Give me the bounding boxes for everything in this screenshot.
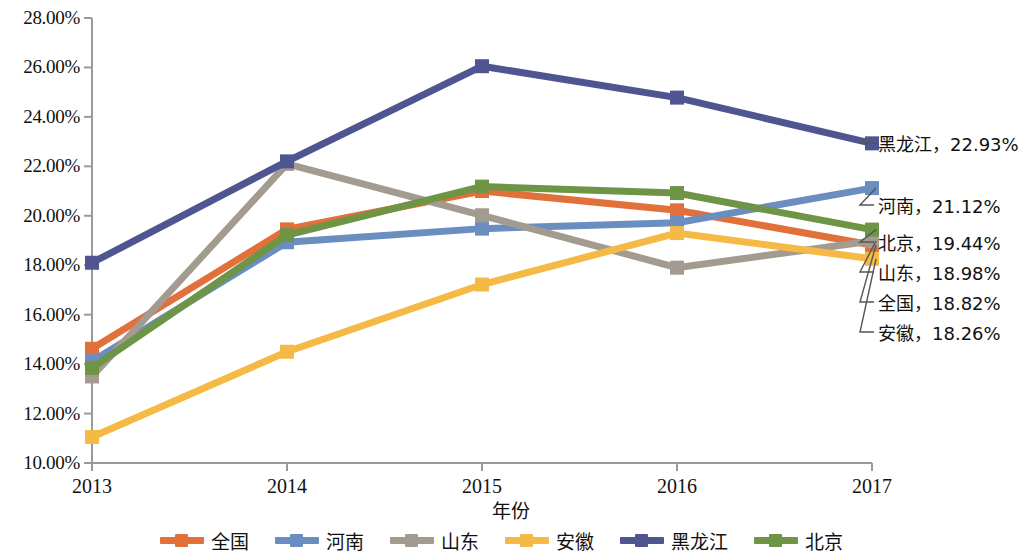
legend-label: 山东 (441, 527, 479, 554)
y-axis-tick-label: 10.00% (2, 452, 80, 474)
data-point (85, 361, 99, 375)
legend-item-北京[interactable]: 北京 (754, 527, 843, 554)
data-point (280, 154, 294, 168)
data-point (475, 222, 489, 236)
legend-swatch-icon (620, 537, 664, 544)
legend-label: 黑龙江 (671, 527, 728, 554)
legend-label: 河南 (326, 527, 364, 554)
legend-item-山东[interactable]: 山东 (390, 527, 479, 554)
end-label-山东: 山东，18.98% (878, 259, 1001, 285)
legend-item-安徽[interactable]: 安徽 (505, 527, 594, 554)
y-axis-tick-label: 22.00% (2, 155, 80, 177)
series-line (92, 233, 872, 437)
data-point (85, 430, 99, 444)
legend-label: 北京 (805, 527, 843, 554)
data-point (475, 180, 489, 194)
x-axis-tick-label: 2016 (632, 475, 722, 498)
data-point (280, 228, 294, 242)
x-axis-tick-label: 2017 (827, 475, 917, 498)
legend-label: 全国 (211, 527, 249, 554)
legend-label: 安徽 (556, 527, 594, 554)
legend-swatch-icon (160, 537, 204, 544)
data-point (670, 91, 684, 105)
data-point (865, 223, 879, 237)
y-axis-tick-label: 20.00% (2, 205, 80, 227)
legend-swatch-icon (275, 537, 319, 544)
end-label-黑龙江: 黑龙江，22.93% (878, 130, 1019, 156)
end-label-全国: 全国，18.82% (878, 289, 1001, 315)
data-point (85, 256, 99, 270)
legend-swatch-icon (505, 537, 549, 544)
legend-item-河南[interactable]: 河南 (275, 527, 364, 554)
x-axis-tick-label: 2014 (242, 475, 332, 498)
end-label-北京: 北京，19.44% (878, 229, 1001, 255)
chart-legend: 全国河南山东安徽黑龙江北京 (0, 527, 1002, 554)
data-point (670, 186, 684, 200)
y-axis-tick-label: 26.00% (2, 56, 80, 78)
y-axis-tick-label: 12.00% (2, 403, 80, 425)
legend-swatch-icon (754, 537, 798, 544)
y-axis-tick-label: 14.00% (2, 353, 80, 375)
end-label-河南: 河南，21.12% (878, 192, 1001, 218)
data-point (85, 342, 99, 356)
y-axis-tick-label: 28.00% (2, 7, 80, 29)
y-axis-tick-label: 24.00% (2, 106, 80, 128)
data-point (670, 203, 684, 217)
legend-item-全国[interactable]: 全国 (160, 527, 249, 554)
data-point (280, 345, 294, 359)
x-axis-tick-label: 2015 (437, 475, 527, 498)
y-axis-tick-label: 18.00% (2, 254, 80, 276)
legend-item-黑龙江[interactable]: 黑龙江 (620, 527, 728, 554)
y-axis-tick-label: 16.00% (2, 304, 80, 326)
series-4 (85, 59, 879, 270)
data-point (475, 59, 489, 73)
x-axis-title: 年份 (492, 496, 530, 523)
data-point (670, 226, 684, 240)
x-axis-tick-label: 2013 (47, 475, 137, 498)
data-point (475, 278, 489, 292)
legend-swatch-icon (390, 537, 434, 544)
end-label-安徽: 安徽，18.26% (878, 319, 1001, 345)
data-point (475, 208, 489, 222)
data-point (670, 261, 684, 275)
